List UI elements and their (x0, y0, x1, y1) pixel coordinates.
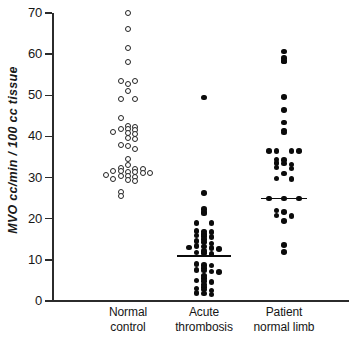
data-point (281, 242, 287, 248)
data-point (125, 26, 131, 32)
data-point (186, 245, 192, 251)
data-point (194, 278, 200, 284)
data-point (281, 49, 287, 55)
data-point (194, 267, 200, 273)
data-point (216, 269, 222, 275)
data-point (132, 78, 138, 84)
data-point (289, 213, 295, 219)
y-axis-tick (45, 259, 52, 260)
y-axis-tick-label: 20 (2, 211, 42, 226)
data-point (132, 96, 138, 102)
data-point (125, 81, 131, 87)
data-point (209, 245, 215, 251)
data-point (201, 95, 207, 101)
data-point (125, 156, 131, 162)
y-axis-tick (45, 136, 52, 137)
data-point (281, 130, 287, 136)
y-axis-tick-label: 60 (2, 46, 42, 61)
data-point (281, 120, 287, 126)
data-point (125, 59, 131, 65)
data-point (281, 249, 287, 255)
data-point (296, 148, 302, 154)
data-point (209, 234, 215, 240)
data-point (274, 148, 280, 154)
data-point (110, 176, 116, 182)
data-point (274, 165, 280, 171)
data-point (125, 135, 131, 141)
data-point (125, 88, 131, 94)
y-axis-tick (45, 95, 52, 96)
data-point (132, 146, 138, 152)
data-point (132, 178, 138, 184)
y-axis-tick (45, 12, 52, 13)
data-point (281, 107, 287, 113)
plot-area (52, 13, 349, 301)
data-point (147, 170, 153, 176)
data-point (194, 220, 200, 226)
data-point (118, 78, 124, 84)
data-point (274, 176, 280, 182)
data-point (266, 148, 272, 154)
data-point (118, 126, 124, 132)
data-point (281, 209, 287, 215)
data-point (289, 148, 295, 154)
data-point (281, 59, 287, 65)
data-point (125, 45, 131, 51)
data-point (209, 279, 215, 285)
data-point (209, 263, 215, 269)
y-axis-tick-label: 30 (2, 170, 42, 185)
data-point (118, 115, 124, 121)
y-axis-tick (45, 177, 52, 178)
data-point (216, 246, 222, 252)
data-point (289, 166, 295, 172)
data-point (140, 170, 146, 176)
data-point (274, 213, 280, 219)
x-axis-category-label-line1: Acute (189, 305, 219, 319)
data-point (125, 177, 131, 183)
data-point (201, 211, 207, 217)
data-point (281, 171, 287, 177)
data-point (125, 162, 131, 168)
y-axis-tick-label: 70 (2, 5, 42, 20)
x-axis-category-label-line1: Normal (109, 305, 147, 319)
x-axis-category-label: Patientnormal limb (229, 305, 339, 334)
data-point (125, 10, 131, 16)
data-point (281, 94, 287, 100)
data-point (281, 218, 287, 224)
y-axis-tick-label: 10 (2, 252, 42, 267)
data-point (281, 161, 287, 167)
data-point (194, 261, 200, 267)
data-point (110, 168, 116, 174)
data-point (103, 172, 109, 178)
data-point (125, 143, 131, 149)
median-line (261, 198, 307, 200)
data-point (118, 193, 124, 199)
data-point (110, 129, 116, 135)
data-point (201, 190, 207, 196)
data-point (201, 291, 207, 297)
data-point (118, 173, 124, 179)
data-point (194, 243, 200, 249)
x-axis-category-label-line2: normal limb (229, 320, 339, 335)
data-point (118, 96, 124, 102)
y-axis-tick-label: 0 (2, 293, 42, 308)
x-axis-category-label-line1: Patient (266, 305, 303, 319)
chart-figure: MVO cc/min / 100 cc tissue 0102030405060… (0, 0, 353, 338)
data-point (194, 290, 200, 296)
median-line (177, 255, 231, 257)
data-point (289, 176, 295, 182)
data-point (209, 269, 215, 275)
y-axis-tick (45, 300, 52, 301)
data-point (209, 292, 215, 298)
y-axis-tick (45, 53, 52, 54)
y-axis-tick (45, 218, 52, 219)
y-axis-tick-label: 50 (2, 87, 42, 102)
data-point (209, 220, 215, 226)
data-point (132, 136, 138, 142)
data-point (118, 142, 124, 148)
y-axis-tick-label: 40 (2, 128, 42, 143)
